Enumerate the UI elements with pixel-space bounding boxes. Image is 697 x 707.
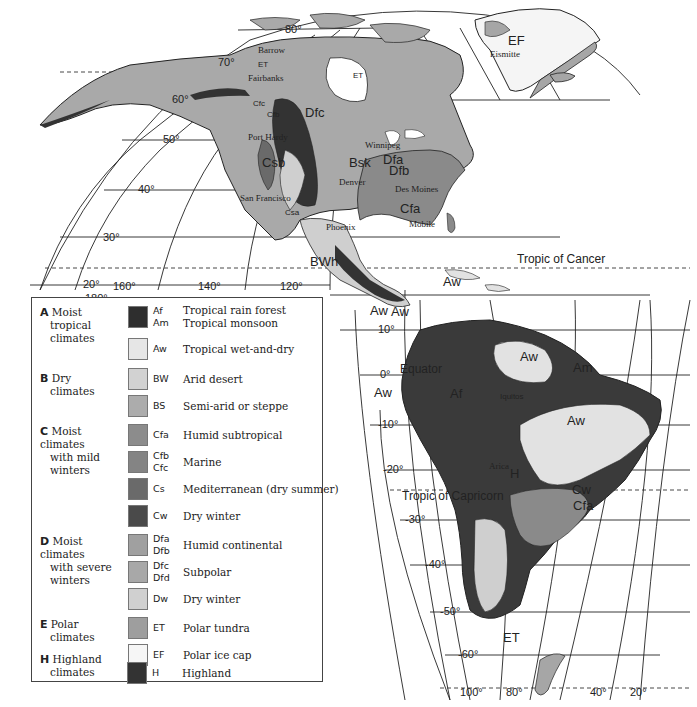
lat-label: 60° — [172, 93, 189, 105]
group-label: winters — [50, 574, 90, 586]
region-label: Csa — [285, 208, 300, 217]
lon-label: 100° — [460, 686, 483, 698]
group-label: Dry — [52, 372, 71, 384]
color-swatch — [128, 424, 148, 446]
legend-entry-cs: Cs Mediterranean (dry summer) — [128, 478, 339, 500]
city-label: Arica — [489, 461, 509, 471]
lon-label: 160° — [113, 280, 136, 292]
climate-code: BS — [153, 400, 179, 412]
color-swatch — [128, 505, 148, 527]
legend-entry-bw: BW Arid desert — [128, 368, 243, 390]
climate-description: Humid continental — [183, 539, 282, 551]
climate-description: Tropical rain forest Tropical monsoon — [183, 304, 286, 330]
city-label: Fairbanks — [248, 73, 284, 83]
group-label: tropical — [50, 319, 91, 331]
group-label: with mild — [50, 451, 100, 463]
legend-group-b: B Dry climates — [40, 372, 125, 398]
climate-description: Dry winter — [183, 510, 240, 522]
legend-entry-af-am: Af Am Tropical rain forest Tropical mons… — [128, 306, 286, 328]
legend-group-d: D Moist climates with severe winters — [40, 535, 125, 587]
group-label: climates — [50, 332, 95, 344]
lat-label: -40° — [425, 558, 445, 570]
region-label: BWh — [310, 254, 338, 269]
lat-label: -60° — [458, 648, 478, 660]
legend-entry-cfa: Cfa Humid subtropical — [128, 424, 282, 446]
legend-entry-h: H Highland — [127, 662, 231, 684]
city-label: Iquitos — [500, 392, 524, 401]
region-label: Aw — [443, 274, 461, 289]
climate-code: Dw — [153, 593, 179, 605]
region-label: Aw — [370, 303, 388, 318]
legend-entry-aw: Aw Tropical wet-and-dry — [128, 338, 294, 360]
climate-code: BW — [153, 373, 179, 385]
color-swatch — [127, 662, 147, 684]
climate-code: Cw — [153, 510, 179, 522]
group-label: climates — [50, 385, 95, 397]
lat-label: 80° — [285, 23, 302, 35]
city-label: Port Hardy — [248, 132, 288, 142]
legend-group-a: A Moist tropical climates — [40, 306, 125, 345]
lat-label: -30° — [405, 513, 425, 525]
legend-entry-et: ET Polar tundra — [128, 617, 250, 639]
city-label: Mobile — [409, 219, 435, 229]
region-label: Csb — [262, 155, 285, 170]
climate-code: ET — [153, 622, 179, 634]
legend-entry-bs: BS Semi-arid or steppe — [128, 395, 288, 417]
color-swatch — [128, 451, 148, 473]
color-swatch — [128, 561, 148, 583]
region-label: Aw — [391, 304, 409, 319]
group-letter: H — [40, 653, 49, 666]
lon-label: 140° — [198, 280, 221, 292]
climate-code: Cfb Cfc — [153, 450, 179, 474]
city-label: Eismitte — [490, 49, 520, 59]
color-swatch — [128, 534, 148, 556]
lon-label: 120° — [280, 280, 303, 292]
region-label: Cfb — [267, 110, 280, 119]
region-label: EF — [508, 33, 525, 48]
region-label: Af — [450, 386, 463, 401]
region-label: Cfa — [400, 201, 421, 216]
climate-code: Af Am — [153, 305, 179, 329]
climate-description: Arid desert — [183, 373, 243, 385]
lon-label: 20° — [630, 686, 647, 698]
region-label: ET — [503, 630, 520, 645]
region-label: Cfa — [573, 498, 594, 513]
climate-description: Humid subtropical — [183, 429, 282, 441]
color-swatch — [128, 368, 148, 390]
region-label: Aw — [374, 385, 392, 400]
lat-label: 0° — [380, 368, 391, 380]
lat-label: 40° — [138, 183, 155, 195]
region-label: Dfa — [383, 152, 404, 167]
region-label: Cfc — [253, 99, 265, 108]
legend-entry-dfc-dfd: Dfc Dfd Subpolar — [128, 561, 231, 583]
climate-description: Highland — [182, 667, 231, 679]
group-letter: C — [40, 425, 48, 438]
climate-description: Tropical wet-and-dry — [183, 343, 294, 355]
city-label: Winnipeg — [365, 140, 401, 150]
lat-label: 30° — [103, 231, 120, 243]
legend: A Moist tropical climates B Dry climates… — [31, 297, 323, 682]
group-label: climates — [50, 666, 95, 678]
climate-code: Cs — [153, 483, 179, 495]
region-label: Aw — [520, 349, 538, 364]
legend-entry-cfb-cfc: Cfb Cfc Marine — [128, 451, 221, 473]
climate-code: H — [152, 667, 178, 679]
city-label: Barrow — [258, 45, 285, 55]
color-swatch — [128, 617, 148, 639]
climate-description: Mediterranean (dry summer) — [183, 483, 339, 495]
lat-label: -50° — [440, 605, 460, 617]
climate-code: Cfa — [153, 429, 179, 441]
south-america — [402, 320, 662, 695]
tropic-of-capricorn-label: Tropic of Capricorn — [402, 489, 504, 503]
climate-description: Semi-arid or steppe — [183, 400, 288, 412]
color-swatch — [128, 338, 148, 360]
climate-code: Dfa Dfb — [153, 533, 179, 557]
climate-code: Dfc Dfd — [153, 560, 179, 584]
group-letter: B — [40, 372, 48, 385]
region-label: Dfc — [305, 105, 325, 120]
group-label: Moist — [52, 306, 82, 318]
color-swatch — [128, 588, 148, 610]
climate-code: Aw — [153, 343, 179, 355]
climate-description: Polar ice cap — [183, 649, 252, 661]
climate-code: EF — [153, 649, 179, 661]
